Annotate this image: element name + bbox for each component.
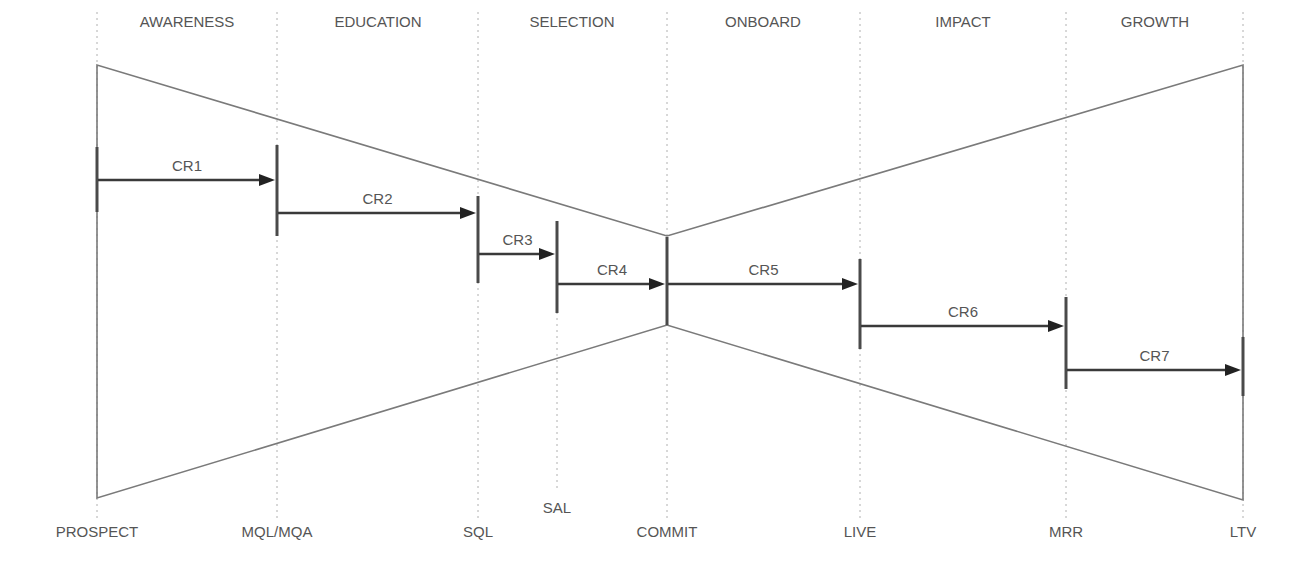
conversion-rate-label: CR3: [502, 231, 532, 248]
stage-label-awareness: AWARENESS: [140, 13, 235, 30]
milestone-label-prospect: PROSPECT: [56, 523, 139, 540]
arrow-head-icon: [460, 207, 476, 219]
milestone-label-mrr: MRR: [1049, 523, 1083, 540]
arrow-head-icon: [1225, 364, 1241, 376]
bowtie-funnel-diagram: CR1CR2CR3CR4CR5CR6CR7 AWARENESSEDUCATION…: [0, 0, 1313, 569]
conversion-arrow-cr4: CR4: [558, 261, 665, 290]
conversion-arrow-cr6: CR6: [861, 303, 1064, 332]
stage-label-selection: SELECTION: [529, 13, 614, 30]
conversion-arrow-cr5: CR5: [668, 261, 858, 290]
conversion-rate-label: CR4: [597, 261, 627, 278]
stage-label-education: EDUCATION: [334, 13, 421, 30]
stage-label-growth: GROWTH: [1121, 13, 1189, 30]
conversion-rate-label: CR5: [748, 261, 778, 278]
stage-label-impact: IMPACT: [935, 13, 991, 30]
conversion-arrow-cr3: CR3: [479, 231, 555, 260]
conversion-rate-label: CR1: [172, 157, 202, 174]
conversion-arrow-cr1: CR1: [98, 157, 275, 186]
milestone-labels: PROSPECTMQL/MQASQLSALCOMMITLIVEMRRLTV: [56, 499, 1256, 540]
conversion-arrow-cr7: CR7: [1067, 347, 1241, 376]
conversion-rate-label: CR6: [948, 303, 978, 320]
arrow-head-icon: [1048, 320, 1064, 332]
milestone-label-mql-mqa: MQL/MQA: [242, 523, 313, 540]
arrow-head-icon: [842, 278, 858, 290]
milestone-label-sql: SQL: [463, 523, 493, 540]
conversion-arrows: CR1CR2CR3CR4CR5CR6CR7: [98, 157, 1241, 376]
conversion-rate-label: CR7: [1139, 347, 1169, 364]
conversion-arrow-cr2: CR2: [278, 190, 476, 219]
milestone-label-ltv: LTV: [1230, 523, 1256, 540]
stage-label-onboard: ONBOARD: [725, 13, 801, 30]
milestone-label-live: LIVE: [844, 523, 877, 540]
milestone-label-sal: SAL: [543, 499, 571, 516]
stage-labels: AWARENESSEDUCATIONSELECTIONONBOARDIMPACT…: [140, 13, 1190, 30]
arrow-head-icon: [649, 278, 665, 290]
arrow-head-icon: [539, 248, 555, 260]
conversion-rate-label: CR2: [362, 190, 392, 207]
stage-dividers: [97, 12, 1243, 520]
arrow-head-icon: [259, 174, 275, 186]
bowtie-outline: [97, 65, 1243, 500]
milestone-label-commit: COMMIT: [637, 523, 698, 540]
bowtie-outline-shape: [97, 65, 1243, 500]
milestone-markers: [97, 145, 1243, 396]
